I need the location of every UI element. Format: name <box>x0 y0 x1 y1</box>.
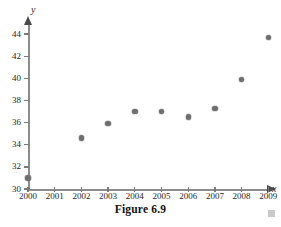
x-axis-tick-label: 2004 <box>122 192 148 201</box>
y-axis-tick <box>24 100 29 101</box>
x-axis-tick-label: 2001 <box>42 192 68 201</box>
y-axis-tick-label: 32 <box>5 162 21 171</box>
x-axis-tick-label: 2003 <box>95 192 121 201</box>
y-axis-tick <box>24 78 29 79</box>
figure-caption: Figure 6.9 <box>0 203 281 215</box>
data-point <box>212 106 217 111</box>
figure-container: y x 3032343638404244 2000200120022003200… <box>0 0 281 227</box>
y-axis-arrow-icon <box>24 16 32 25</box>
data-point <box>132 109 137 114</box>
y-axis-tick-label: 36 <box>5 118 21 127</box>
x-axis-tick-label: 2000 <box>15 192 41 201</box>
y-axis-line <box>28 24 30 190</box>
data-point <box>159 109 164 114</box>
x-axis-tick-label: 2002 <box>68 192 94 201</box>
data-point <box>79 135 84 140</box>
y-axis-tick <box>24 166 29 167</box>
y-axis-label: y <box>31 5 35 15</box>
x-axis-tick-label: 2005 <box>149 192 175 201</box>
y-axis-tick-label: 40 <box>5 74 21 83</box>
scatter-plot: y x 3032343638404244 2000200120022003200… <box>0 0 281 200</box>
y-axis-tick-label: 44 <box>5 30 21 39</box>
y-axis-tick <box>24 33 29 34</box>
data-point <box>25 175 30 180</box>
y-axis-tick-label: 42 <box>5 52 21 61</box>
y-axis-tick <box>24 56 29 57</box>
x-axis-tick-label: 2007 <box>202 192 228 201</box>
y-axis-tick-label: 38 <box>5 96 21 105</box>
y-axis-tick-label: 34 <box>5 140 21 149</box>
data-point <box>105 121 110 126</box>
data-point <box>239 77 244 82</box>
x-axis-tick-label: 2006 <box>175 192 201 201</box>
data-point <box>186 114 191 119</box>
x-axis-tick-label: 2008 <box>229 192 255 201</box>
data-point <box>266 35 271 40</box>
y-axis-tick <box>24 122 29 123</box>
x-axis-tick-label: 2009 <box>255 192 281 201</box>
corner-marker-icon <box>268 210 275 217</box>
y-axis-tick <box>24 144 29 145</box>
